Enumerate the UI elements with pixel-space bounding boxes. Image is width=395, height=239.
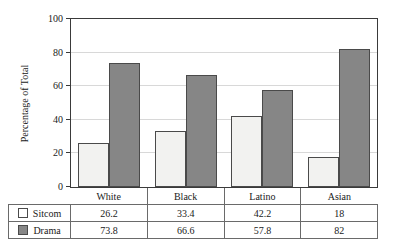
- y-axis-title-label: Percentage of Total: [20, 64, 31, 141]
- data-table-body: WhiteBlackLatinoAsianSitcom26.233.442.21…: [9, 188, 378, 239]
- bar-latino-sitcom: [231, 116, 262, 187]
- y-axis-title: Percentage of Total: [18, 18, 32, 188]
- cell-drama-latino: 57.8: [224, 222, 301, 239]
- y-tick-label-100: 100: [48, 13, 63, 24]
- table-row: Sitcom26.233.442.218: [9, 205, 378, 222]
- bar-latino-drama: [262, 90, 293, 187]
- bar-black-sitcom: [155, 131, 186, 187]
- bar-group-asian: [301, 19, 378, 187]
- cell-sitcom-white: 26.2: [71, 205, 148, 222]
- cell-sitcom-latino: 42.2: [224, 205, 301, 222]
- bar-group-white: [71, 19, 148, 187]
- bar-black-drama: [186, 75, 217, 187]
- bar-group-black: [148, 19, 225, 187]
- legend-swatch-drama-icon: [18, 225, 28, 235]
- bar-white-sitcom: [78, 143, 109, 187]
- cell-sitcom-black: 33.4: [147, 205, 224, 222]
- column-header-asian: Asian: [301, 188, 378, 205]
- column-header-white: White: [71, 188, 148, 205]
- column-header-latino: Latino: [224, 188, 301, 205]
- legend-label-drama: Drama: [33, 225, 60, 236]
- bar-groups: [71, 19, 377, 187]
- cell-drama-black: 66.6: [147, 222, 224, 239]
- cell-sitcom-asian: 18: [301, 205, 378, 222]
- bar-group-latino: [224, 19, 301, 187]
- table-header-row: WhiteBlackLatinoAsian: [9, 188, 378, 205]
- table-row: Drama73.866.657.882: [9, 222, 378, 239]
- bar-asian-sitcom: [308, 157, 339, 187]
- bar-asian-drama: [339, 49, 370, 187]
- plot-area: 020406080100: [70, 18, 378, 188]
- y-tick-label-60: 60: [53, 80, 63, 91]
- legend-swatch-sitcom-icon: [18, 208, 28, 218]
- bar-white-drama: [109, 63, 140, 187]
- y-tick-label-80: 80: [53, 46, 63, 57]
- cell-drama-white: 73.8: [71, 222, 148, 239]
- data-table: WhiteBlackLatinoAsianSitcom26.233.442.21…: [8, 188, 378, 239]
- cell-drama-asian: 82: [301, 222, 378, 239]
- bar-chart-figure: Percentage of Total 020406080100 WhiteBl…: [0, 0, 395, 239]
- table-corner-cell: [9, 188, 71, 205]
- y-tick-label-40: 40: [53, 113, 63, 124]
- y-tick-label-20: 20: [53, 147, 63, 158]
- legend-item-sitcom: Sitcom: [9, 205, 71, 222]
- column-header-black: Black: [147, 188, 224, 205]
- legend-label-sitcom: Sitcom: [33, 208, 61, 219]
- legend-item-drama: Drama: [9, 222, 71, 239]
